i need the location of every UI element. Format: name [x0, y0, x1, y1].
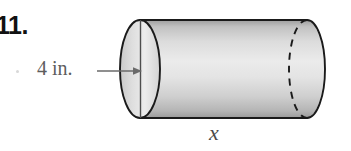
length-label: x [209, 120, 219, 146]
diameter-label: 4 in. [37, 56, 73, 80]
cylinder-figure: 11. [0, 0, 351, 151]
